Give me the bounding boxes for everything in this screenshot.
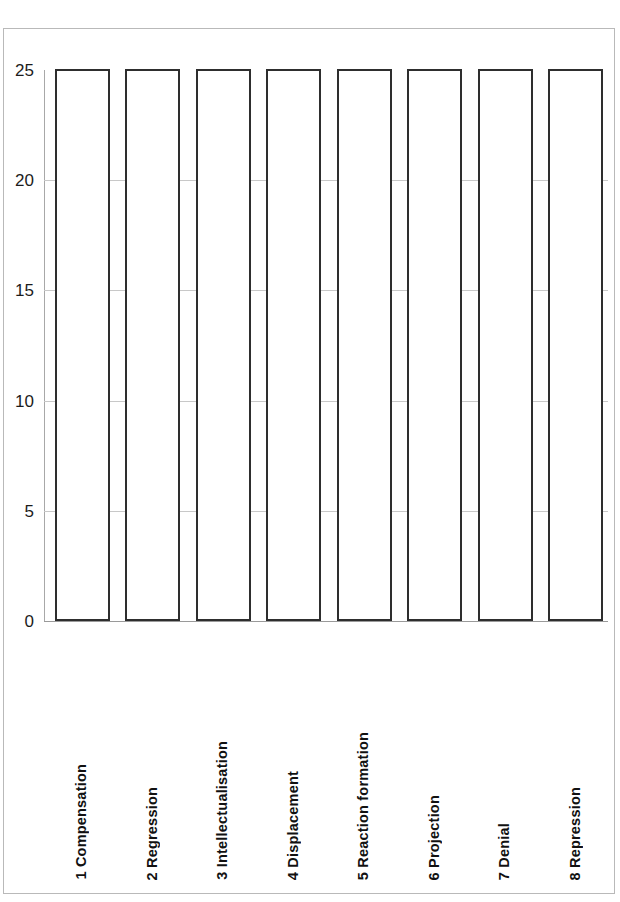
y-tick-label-25: 25: [15, 62, 34, 79]
x-axis-label-8: 8 Repression: [567, 787, 583, 880]
x-axis-label-2: 2 Regression: [144, 787, 160, 880]
y-tick-label-15: 15: [15, 282, 34, 299]
x-axis-label-4: 4 Displacement: [285, 771, 301, 880]
gridline-0: [44, 621, 608, 622]
bar: [125, 69, 180, 621]
y-tick-label-20: 20: [15, 172, 34, 189]
x-axis-label-7: 7 Denial: [496, 823, 512, 880]
bar: [407, 69, 462, 621]
bar: [266, 69, 321, 621]
bar: [478, 69, 533, 621]
bar: [196, 69, 251, 621]
y-axis-tick-labels: 0510152025: [0, 0, 34, 902]
x-axis-label-6: 6 Projection: [426, 795, 442, 880]
y-tick-label-5: 5: [25, 502, 34, 519]
bar: [55, 69, 110, 621]
x-axis-label-1: 1 Compensation: [73, 764, 89, 880]
bar: [548, 69, 603, 621]
x-axis-label-5: 5 Reaction formation: [355, 732, 371, 880]
x-axis-category-labels: 1 Compensation2 Regression3 Intellectual…: [44, 630, 608, 880]
bar: [337, 69, 392, 621]
y-tick-label-10: 10: [15, 392, 34, 409]
bar-chart: 0510152025 1 Compensation2 Regression3 I…: [0, 0, 620, 902]
y-tick-label-0: 0: [25, 613, 34, 630]
plot-area: [44, 70, 608, 621]
x-axis-label-3: 3 Intellectualisation: [214, 741, 230, 880]
